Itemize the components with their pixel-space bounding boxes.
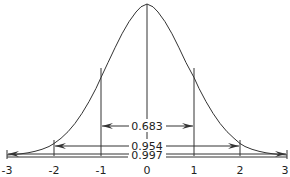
tick-0: 0: [144, 164, 151, 177]
tick-plus-2: 2: [237, 164, 244, 177]
tick-minus-3: -3: [2, 164, 13, 177]
tick-minus-1: -1: [96, 164, 107, 177]
label-0683: 0.683: [131, 120, 163, 133]
tick-plus-1: 1: [191, 164, 198, 177]
tick-plus-3: 3: [282, 164, 289, 177]
normal-distribution-diagram: 0.683 0.954 0.997 -3 -2 -1 0 1 2 3: [0, 0, 290, 177]
tick-minus-2: -2: [49, 164, 60, 177]
label-0997: 0.997: [131, 149, 163, 162]
